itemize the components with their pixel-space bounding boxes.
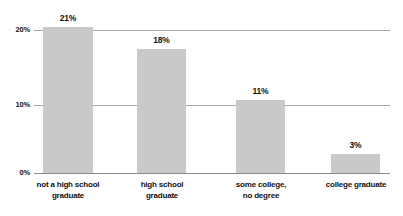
bar-value-label-4: 3% [331,140,380,150]
bar-some-college-no-degree[interactable] [236,100,285,173]
category-label-line-1: high school [112,180,212,191]
category-label-not-a-high-school-graduate: not a high school graduate [18,180,118,201]
category-label-line-1: not a high school [18,180,118,191]
category-label-line-2: graduate [18,191,118,202]
ytick-label-10: 10% [0,101,30,109]
ytick-label-20: 20% [0,26,30,34]
category-label-line-2: no degree [211,191,311,202]
bar-college-graduate[interactable] [331,154,380,173]
category-label-line-2: graduate [112,191,212,202]
category-label-line-1: college graduate [306,180,403,191]
bar-high-school-graduate[interactable] [137,49,186,173]
category-label-some-college-no-degree: some college, no degree [211,180,311,201]
ytick-dash-10 [34,105,43,106]
category-label-high-school-graduate: high school graduate [112,180,212,201]
gridline-10 [43,105,390,106]
plot-area: 20% 10% 0% 21% 18% 11% 3% not a high sch… [0,0,403,216]
bar-not-a-high-school-graduate[interactable] [43,27,93,173]
bar-value-label-3: 11% [236,86,285,96]
gridline-baseline-0 [34,173,390,174]
ytick-dash-20 [34,30,43,31]
category-label-college-graduate: college graduate [306,180,403,191]
bar-value-label-2: 18% [137,35,186,45]
bar-value-label-1: 21% [43,13,93,23]
gridline-20 [43,30,390,31]
ytick-label-0: 0% [0,169,30,177]
bar-chart: 20% 10% 0% 21% 18% 11% 3% not a high sch… [0,0,403,216]
category-label-line-1: some college, [211,180,311,191]
